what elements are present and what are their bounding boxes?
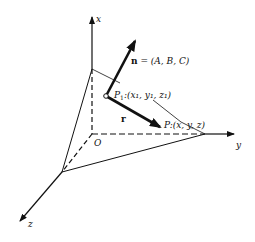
p-label: P:(x, y, z): [163, 120, 205, 130]
svg-text:P:(x, y, z): P:(x, y, z): [163, 120, 205, 130]
r-vector-arrow: [106, 96, 160, 127]
p1-coords: :(x₁, y₁, z₁): [124, 90, 172, 100]
svg-text:n = (A, B, C): n = (A, B, C): [131, 56, 190, 66]
p1-point-marker: [104, 94, 109, 99]
n-equals: =: [138, 56, 151, 66]
y-axis-label: y: [235, 140, 242, 150]
origin-label: O: [94, 138, 102, 148]
p-coords: :(x, y, z): [170, 120, 206, 130]
plane-normal-diagram: x y z O n = (A, B, C) P1:(x₁, y₁, z₁) r …: [0, 0, 255, 242]
normal-vector-label: n = (A, B, C): [131, 56, 190, 66]
normal-vector-arrow: [106, 41, 135, 96]
r-label: r: [121, 114, 126, 124]
x-axis-label: x: [96, 14, 101, 24]
p1-label: P1:(x₁, y₁, z₁): [113, 90, 172, 101]
svg-text:P1:(x₁, y₁, z₁): P1:(x₁, y₁, z₁): [113, 90, 172, 101]
z-axis: [20, 134, 92, 221]
z-axis-label: z: [27, 219, 33, 229]
n-components: (A, B, C): [151, 56, 190, 66]
